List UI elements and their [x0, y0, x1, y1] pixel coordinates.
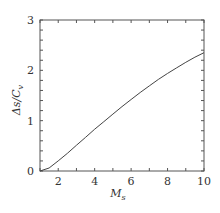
y-tick-labels: 0123 [27, 14, 34, 178]
y-tick-label: 3 [27, 14, 34, 27]
y-tick-label: 1 [27, 115, 34, 128]
plot-frame [40, 20, 204, 171]
data-line [40, 53, 204, 171]
x-axis-label: Ms [109, 187, 125, 202]
y-tick-label: 0 [27, 165, 34, 178]
entropy-chart: 246810 0123 Ms Δs/Cv [0, 0, 220, 213]
x-tick-label: 2 [55, 175, 62, 188]
x-tick-label: 6 [128, 175, 135, 188]
y-axis-label: Δs/Cv [10, 84, 25, 116]
y-tick-label: 2 [27, 64, 34, 77]
x-tick-labels: 246810 [55, 175, 211, 188]
axis-ticks [40, 20, 204, 171]
x-tick-label: 10 [197, 175, 211, 188]
x-tick-label: 4 [91, 175, 98, 188]
x-tick-label: 8 [164, 175, 171, 188]
